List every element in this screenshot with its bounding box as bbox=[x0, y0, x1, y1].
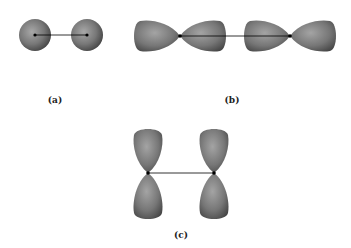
panel-b: (b) bbox=[134, 20, 336, 105]
panel-c-label: (c) bbox=[174, 230, 188, 240]
nucleus-icon bbox=[212, 171, 216, 175]
nucleus-icon bbox=[33, 33, 36, 36]
nucleus-icon bbox=[146, 171, 150, 175]
panel-a-label: (a) bbox=[48, 95, 62, 105]
nucleus-icon bbox=[178, 34, 182, 38]
panel-a: (a) bbox=[19, 19, 103, 105]
panel-b-label: (b) bbox=[225, 95, 240, 105]
p-orbital-lobe bbox=[290, 20, 336, 51]
orbital-diagram: (a) (b) (c) bbox=[0, 0, 351, 248]
p-orbital-lobe bbox=[134, 129, 163, 173]
panel-c: (c) bbox=[134, 129, 229, 240]
p-orbital-lobe bbox=[134, 173, 163, 219]
p-orbital-lobe bbox=[200, 129, 229, 173]
nucleus-icon bbox=[85, 33, 88, 36]
nucleus-icon bbox=[288, 34, 292, 38]
p-orbital-lobe bbox=[134, 20, 180, 51]
p-orbital-lobe bbox=[200, 173, 229, 219]
